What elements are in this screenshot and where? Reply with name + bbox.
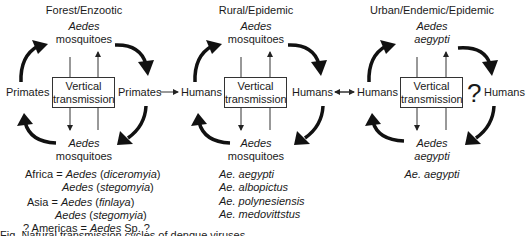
panel-3-vertical-transmission-box: Vertical transmission — [400, 77, 463, 108]
box-line-2: transmission — [225, 93, 286, 106]
panel-1-right-host: Primates — [118, 86, 161, 99]
box-line-2: transmission — [53, 93, 114, 106]
panel-2-bottom-vector-genus: Aedes — [240, 137, 271, 150]
panel-2-title: Rural/Epidemic — [219, 4, 294, 17]
panel-3-left-host: Humans — [357, 86, 398, 99]
species-item: Ae. medovittstus — [219, 208, 300, 221]
species-row: Aedes (stegomyia) — [62, 181, 154, 194]
panel-3-top-vector-species: aegypti — [414, 33, 449, 46]
box-line-1: Vertical — [225, 80, 286, 93]
panel-2-left-host: Humans — [181, 86, 222, 99]
panel-1-top-vector-genus: Aedes — [68, 20, 99, 33]
species-row: Aedes (stegomyia) — [55, 209, 147, 222]
uncertain-question-mark: ? — [467, 80, 481, 106]
species-item: Ae. albopictus — [219, 181, 288, 194]
panel-1-vertical-transmission-box: Vertical transmission — [52, 77, 115, 108]
box-line-1: Vertical — [401, 80, 462, 93]
panel-1-title: Forest/Enzootic — [46, 4, 122, 17]
panel-3-top-vector-genus: Aedes — [416, 20, 447, 33]
panel-2-vertical-transmission-box: Vertical transmission — [224, 77, 287, 108]
panel-3-title: Urban/Endemic/Epidemic — [370, 4, 494, 17]
panel-1-top-vector-label: mosquitoes — [56, 33, 112, 46]
species-item: Ae. polynesiensis — [219, 195, 305, 208]
panel-1-bottom-vector-genus: Aedes — [68, 137, 99, 150]
species-item: Ae. aegypti — [404, 168, 459, 181]
species-row: Africa = Aedes (diceromyia) — [25, 168, 160, 181]
box-line-2: transmission — [401, 93, 462, 106]
panel-2-top-vector-label: mosquitoes — [228, 33, 284, 46]
panel-2-top-vector-genus: Aedes — [240, 20, 271, 33]
panel-3-bottom-vector-genus: Aedes — [416, 137, 447, 150]
species-row: Asia = Aedes (finlaya) — [27, 196, 134, 209]
panel-3-right-host: Humans — [484, 86, 525, 99]
panel-2-bottom-vector-label: mosquitoes — [228, 150, 284, 163]
panel-1-bottom-vector-label: mosquitoes — [56, 150, 112, 163]
panel-1-left-host: Primates — [6, 86, 49, 99]
figure-caption: Fig. Natural transmission cycles of deng… — [0, 229, 245, 236]
panel-3-bottom-vector-species: aegypti — [414, 150, 449, 163]
panel-2-right-host: Humans — [292, 86, 333, 99]
box-line-1: Vertical — [53, 80, 114, 93]
species-item: Ae. aegypti — [219, 168, 274, 181]
